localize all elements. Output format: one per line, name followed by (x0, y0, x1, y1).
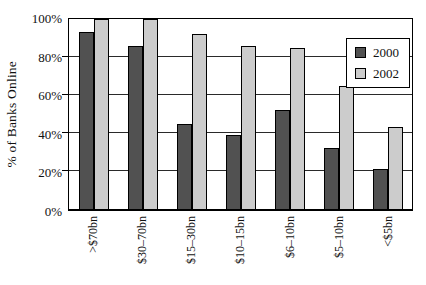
x-axis-label: <$5bn (382, 216, 394, 247)
y-tick-label: 80% (38, 50, 62, 63)
bar-2000 (177, 124, 192, 210)
bar-2000 (373, 169, 388, 209)
x-axis-label-cell: $6–10bn (265, 216, 314, 282)
legend-swatch-2002 (355, 68, 366, 79)
x-axis-label-cell: <$5bn (364, 216, 413, 282)
legend-item-2000: 2000 (355, 46, 399, 59)
x-axis-label: $6–10bn (284, 216, 296, 258)
legend-label-2002: 2002 (373, 67, 399, 80)
bar-2000 (226, 135, 241, 209)
x-axis-label-cell: $10–15bn (216, 216, 265, 282)
x-axis-label-cell: >$70bn (68, 216, 117, 282)
x-axis-label: $10–15bn (234, 216, 246, 264)
axis-tick (62, 132, 68, 133)
x-axis-label: >$70bn (87, 216, 99, 253)
y-tick-label: 40% (38, 127, 62, 140)
x-axis-label-cell: $30–70bn (117, 216, 166, 282)
bar-2002 (388, 127, 403, 209)
bar-2000 (324, 148, 339, 209)
bar-2002 (241, 46, 256, 209)
legend-item-2002: 2002 (355, 67, 399, 80)
y-axis-ticks: 0%20%40%60%80%100% (0, 0, 62, 285)
legend: 20002002 (346, 38, 410, 88)
legend-swatch-2000 (355, 47, 366, 58)
bar-group (265, 19, 314, 209)
bar-2002 (339, 86, 354, 210)
bar-2000 (275, 110, 290, 209)
plot-area: 20002002 (68, 18, 413, 211)
banks-online-bar-chart: % of Banks Online 0%20%40%60%80%100% 200… (0, 0, 426, 285)
x-axis-label-cell: $15–30bn (167, 216, 216, 282)
bar-2000 (79, 32, 94, 209)
bar-2002 (192, 34, 207, 209)
x-axis-label-cell: $5–10bn (314, 216, 363, 282)
bar-2002 (290, 48, 305, 210)
x-axis-label: $5–10bn (333, 216, 345, 258)
bar-group (118, 19, 167, 209)
axis-tick (62, 94, 68, 95)
x-axis-labels: >$70bn$30–70bn$15–30bn$10–15bn$6–10bn$5–… (68, 216, 413, 282)
y-tick-label: 100% (32, 12, 62, 25)
x-axis-label: $15–30bn (185, 216, 197, 264)
axis-tick (62, 170, 68, 171)
y-tick-label: 0% (45, 205, 62, 218)
bar-group (167, 19, 216, 209)
axis-tick (62, 56, 68, 57)
bar-2002 (143, 19, 158, 209)
x-axis-label: $30–70bn (136, 216, 148, 264)
legend-label-2000: 2000 (373, 46, 399, 59)
bar-group (216, 19, 265, 209)
y-tick-label: 60% (38, 89, 62, 102)
bar-group (69, 19, 118, 209)
y-tick-label: 20% (38, 166, 62, 179)
bar-2002 (94, 19, 109, 209)
bar-2000 (128, 46, 143, 209)
